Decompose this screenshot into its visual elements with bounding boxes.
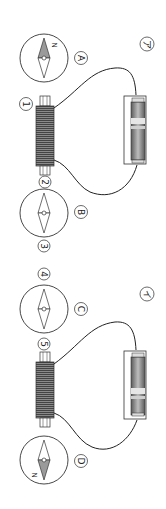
terminal-marker-4: 4 — [38, 268, 50, 280]
battery-a — [124, 96, 146, 164]
coil-b — [36, 352, 54, 427]
svg-text:ア: ア — [142, 40, 152, 49]
svg-text:N: N — [30, 472, 38, 477]
svg-text:3: 3 — [39, 243, 49, 249]
circuit-b-label: イ — [140, 287, 154, 301]
compass-b-label: B — [75, 206, 88, 219]
svg-text:C: C — [76, 306, 86, 312]
svg-text:D: D — [76, 458, 86, 465]
svg-text:2: 2 — [40, 179, 50, 185]
circuit-b: 4 C イ 5 — [20, 268, 154, 484]
coil-a — [36, 96, 54, 175]
marker-3: 3 — [38, 240, 50, 252]
svg-text:A: A — [76, 55, 86, 62]
svg-text:1: 1 — [21, 101, 31, 107]
svg-text:4: 4 — [39, 271, 49, 277]
compass-d-label: D — [75, 455, 88, 468]
svg-text:B: B — [76, 209, 86, 215]
compass-b — [20, 189, 68, 237]
compass-a: N — [20, 34, 68, 82]
compass-c — [20, 285, 68, 333]
terminal-marker-1: 1 — [20, 98, 33, 111]
battery-b — [124, 351, 146, 419]
compass-a-label: A — [75, 52, 88, 65]
svg-text:N: N — [50, 42, 58, 47]
electromagnet-compass-diagram: ア N A 1 — [0, 0, 166, 509]
terminal-marker-2: 2 — [39, 176, 51, 188]
wire-bottom-a — [54, 160, 137, 195]
compass-c-label: C — [75, 303, 88, 316]
circuit-a-label: ア — [140, 37, 154, 51]
circuit-a: ア N A 1 — [20, 34, 155, 252]
terminal-marker-5: 5 — [38, 338, 50, 350]
svg-text:5: 5 — [39, 341, 49, 347]
compass-d: N — [20, 436, 68, 484]
svg-text:イ: イ — [142, 290, 152, 299]
